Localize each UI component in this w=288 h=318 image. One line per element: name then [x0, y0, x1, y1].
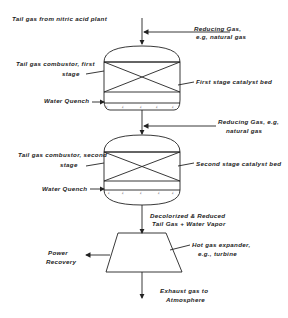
- water-quench-2-label: Water Quench: [42, 185, 87, 193]
- catalyst-bed-1-label: First stage catalyst bed: [196, 78, 272, 86]
- combustor-1-vessel: [104, 46, 180, 110]
- process-flow-diagram: ⁁⁁⁁⁁⁁ ⁁⁁⁁⁁⁁: [0, 0, 288, 318]
- outlet-label-line2: Tail Gas + Water Vapor: [152, 220, 226, 228]
- power-recovery-label-line1: Power: [48, 249, 68, 257]
- svg-text:⁁: ⁁: [171, 188, 174, 195]
- reducing-gas-1-label-line2: e.g, natural gas: [196, 33, 246, 41]
- svg-text:⁁: ⁁: [157, 188, 160, 195]
- outlet-label-line1: Decolorized & Reduced: [150, 212, 225, 220]
- svg-text:⁁: ⁁: [121, 188, 124, 195]
- reducing-gas-2-label-line1: Reducing Gas, e.g,: [218, 118, 279, 126]
- water-quench-1-label: Water Quench: [44, 97, 89, 105]
- combustor-2-vessel: [104, 135, 180, 205]
- combustor-2-label-line2: stage: [60, 161, 78, 169]
- combustor-1-label-line2: stage: [62, 70, 80, 78]
- power-recovery-label-line2: Recovery: [46, 258, 76, 266]
- exhaust-label-line2: Atmosphere: [166, 296, 205, 304]
- svg-text:⁁: ⁁: [139, 188, 142, 195]
- catalyst-bed-2-label: Second stage catalyst bed: [196, 160, 281, 168]
- combustor-1-label-line1: Tail gas combustor, first: [16, 60, 95, 68]
- reducing-gas-1-label-line1: Reducing Gas,: [194, 25, 241, 33]
- expander-label-line1: Hot gas expander,: [192, 241, 250, 249]
- reducing-gas-2-label-line2: natural gas: [226, 127, 262, 135]
- exhaust-label-line1: Exhaust gas to: [160, 287, 208, 295]
- expander-label-line2: e.g., turbine: [198, 250, 237, 258]
- combustor-2-label-line1: Tail gas combustor, second: [18, 151, 107, 159]
- svg-text:⁁: ⁁: [107, 188, 110, 195]
- hot-gas-expander: [106, 233, 182, 272]
- tail-gas-inlet-label: Tail gas from nitric acid plant: [12, 15, 107, 23]
